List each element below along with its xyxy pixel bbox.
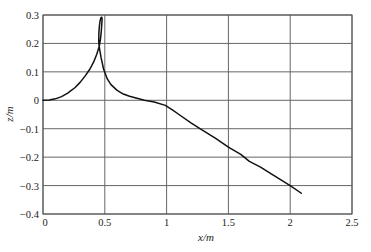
y-tick-label: −0.4 <box>20 209 40 220</box>
y-axis-label: z/m <box>3 106 15 122</box>
grid-lines <box>43 15 352 214</box>
y-tick-label: 0 <box>34 95 39 106</box>
y-tick-label: 0.1 <box>26 67 39 78</box>
x-tick-label: 1.5 <box>222 217 235 228</box>
trajectory-chart: 00.511.522.5 0.30.20.10−0.1−0.2−0.3−0.4 … <box>0 0 371 252</box>
y-tick-label: 0.3 <box>26 10 39 21</box>
y-tick-label: −0.2 <box>20 152 39 163</box>
y-tick-label: −0.3 <box>20 181 39 192</box>
plot-area-frame <box>43 15 352 214</box>
x-tick-label: 2.5 <box>345 217 358 228</box>
x-tick-label: 1 <box>164 217 169 228</box>
x-axis-ticks: 00.511.522.5 <box>42 217 358 228</box>
x-tick-label: 0 <box>42 217 47 228</box>
x-tick-label: 2 <box>288 217 293 228</box>
x-axis-label: x/m <box>197 231 214 243</box>
y-tick-label: −0.1 <box>20 124 39 135</box>
y-axis-ticks: 0.30.20.10−0.1−0.2−0.3−0.4 <box>20 10 40 220</box>
x-tick-label: 0.5 <box>98 217 111 228</box>
y-tick-label: 0.2 <box>26 38 39 49</box>
